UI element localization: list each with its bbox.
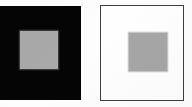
panel-dark-surround	[0, 6, 81, 100]
gray-patch-on-dark	[20, 31, 58, 69]
gray-patch-on-light	[129, 33, 167, 71]
panel-light-surround	[100, 5, 184, 101]
figure-canvas: Two identical gray squares shown against…	[0, 0, 192, 107]
